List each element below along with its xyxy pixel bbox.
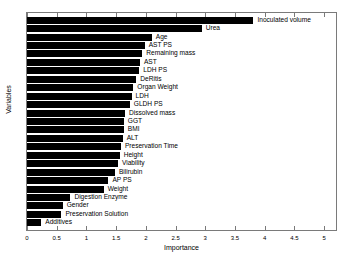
bar-label: Height (124, 151, 143, 159)
bar-row: Dissolved mass (27, 110, 336, 117)
plot-area: Inoculated volumeUreaAgeAST PSRemaining … (26, 12, 337, 231)
bar (27, 84, 133, 91)
bar-label: Preservation Solution (65, 210, 128, 218)
x-tick-label: 3.5 (231, 235, 239, 241)
bar (27, 34, 152, 41)
bar-label: BMI (128, 125, 140, 133)
bar (27, 76, 136, 83)
bar-label: AST PS (149, 41, 172, 49)
x-tick-label: 3 (204, 235, 207, 241)
x-tick-bottom (146, 226, 147, 230)
bar (27, 160, 118, 167)
bar-row: LDH PS (27, 67, 336, 74)
x-tick-bottom (176, 226, 177, 230)
bar (27, 17, 253, 24)
bar-row: GLDH PS (27, 101, 336, 108)
x-tick-label: 0 (25, 235, 28, 241)
bar-label: LDH (136, 92, 149, 100)
bar-label: Organ Weight (137, 83, 178, 91)
bar-row: Bilirubin (27, 169, 336, 176)
bar-row: Preservation Solution (27, 211, 336, 218)
x-tick-bottom (265, 226, 266, 230)
bar (27, 42, 145, 49)
bar-row: Additives (27, 219, 336, 226)
bar-row: ALT (27, 135, 336, 142)
bar-label: AP PS (112, 176, 131, 184)
bar (27, 219, 41, 226)
bar (27, 126, 124, 133)
bar (27, 135, 123, 142)
bar-row: Remaining mass (27, 50, 336, 57)
x-tick-label: 2.5 (171, 235, 179, 241)
x-tick-label: 1.5 (112, 235, 120, 241)
bar-label: Age (156, 33, 168, 41)
x-tick-bottom (205, 226, 206, 230)
bar (27, 194, 70, 201)
x-tick-label: 5 (322, 235, 325, 241)
x-axis-title: Importance (26, 244, 337, 251)
bar (27, 67, 139, 74)
x-tick-bottom (57, 226, 58, 230)
bar-row: LDH (27, 93, 336, 100)
bar-label: LDH PS (143, 66, 167, 74)
bar-label: GGT (128, 117, 142, 125)
bar (27, 202, 63, 209)
x-tick-label: 2 (144, 235, 147, 241)
bar-label: AST (144, 58, 157, 66)
x-tick-label: 1 (85, 235, 88, 241)
bar-row: DeRitis (27, 76, 336, 83)
bar (27, 50, 142, 57)
bar-label: Preservation Time (125, 142, 178, 150)
bar-label: Digestion Enzyme (74, 193, 127, 201)
bar-row: Weight (27, 186, 336, 193)
bar (27, 186, 104, 193)
x-tick-bottom (116, 226, 117, 230)
bar (27, 143, 121, 150)
bar-row: Age (27, 34, 336, 41)
bar-label: Bilirubin (119, 168, 142, 176)
bar (27, 59, 140, 66)
bar-label: Urea (206, 24, 220, 32)
bar (27, 25, 202, 32)
bar-row: AST (27, 59, 336, 66)
bar-row: GGT (27, 118, 336, 125)
bar-label: GLDH PS (134, 100, 163, 108)
bar (27, 101, 130, 108)
bar-row: AP PS (27, 177, 336, 184)
x-tick-bottom (235, 226, 236, 230)
y-axis-title: Variables (5, 70, 12, 130)
bar (27, 93, 132, 100)
bar-label: DeRitis (140, 75, 161, 83)
bar-label: Viability (122, 159, 145, 167)
variable-importance-chart: Variables Inoculated volumeUreaAgeAST PS… (0, 0, 349, 265)
bar (27, 118, 124, 125)
bar-row: Viability (27, 160, 336, 167)
bar-label: Additives (45, 218, 72, 226)
x-tick-label: 0.5 (53, 235, 61, 241)
bar-label: Remaining mass (146, 49, 195, 57)
bar-row: Digestion Enzyme (27, 194, 336, 201)
x-tick-bottom (27, 226, 28, 230)
x-tick-bottom (294, 226, 295, 230)
bar-row: Preservation Time (27, 143, 336, 150)
bar-row: Gender (27, 202, 336, 209)
bar-row: BMI (27, 126, 336, 133)
bar (27, 169, 115, 176)
bar-label: Dissolved mass (129, 109, 175, 117)
x-tick-label: 4 (263, 235, 266, 241)
bar-row: AST PS (27, 42, 336, 49)
bar (27, 152, 120, 159)
x-tick-bottom (86, 226, 87, 230)
x-tick-label: 4.5 (290, 235, 298, 241)
bar-row: Height (27, 152, 336, 159)
x-tick-bottom (324, 226, 325, 230)
bar (27, 177, 108, 184)
bar-row: Organ Weight (27, 84, 336, 91)
bar (27, 211, 61, 218)
bar-label: Gender (67, 201, 89, 209)
bar-row: Inoculated volume (27, 17, 336, 24)
bar-row: Urea (27, 25, 336, 32)
bar-label: Weight (108, 185, 128, 193)
bar-label: Inoculated volume (257, 16, 311, 24)
bar (27, 110, 125, 117)
